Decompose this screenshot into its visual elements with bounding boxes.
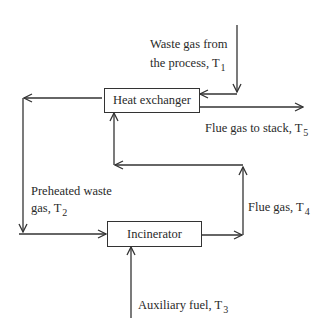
flue-gas-label: Flue gas, T4 [248, 199, 310, 216]
preheated-line1: Preheated waste [31, 183, 112, 200]
t3-subscript: 3 [223, 304, 228, 315]
incinerator-box: Incinerator [107, 221, 202, 247]
waste-gas-label: Waste gas from the process, T1 [150, 35, 227, 73]
auxiliary-fuel-label: Auxiliary fuel, T3 [138, 297, 228, 314]
heat-exchanger-label: Heat exchanger [113, 93, 191, 108]
t5-subscript: 5 [303, 127, 308, 138]
waste-gas-line2: the process, T1 [150, 54, 227, 73]
waste-gas-line1: Waste gas from [150, 35, 227, 54]
heat-exchanger-box: Heat exchanger [104, 88, 200, 113]
t1-subscript: 1 [221, 62, 226, 73]
t2-subscript: 2 [62, 207, 67, 218]
preheated-waste-gas-label: Preheated waste gas, T2 [31, 183, 112, 217]
flue-gas-to-stack-label: Flue gas to stack, T5 [205, 120, 308, 137]
incinerator-label: Incinerator [127, 227, 182, 242]
preheated-line2: gas, T2 [31, 200, 112, 217]
t4-subscript: 4 [305, 206, 310, 217]
